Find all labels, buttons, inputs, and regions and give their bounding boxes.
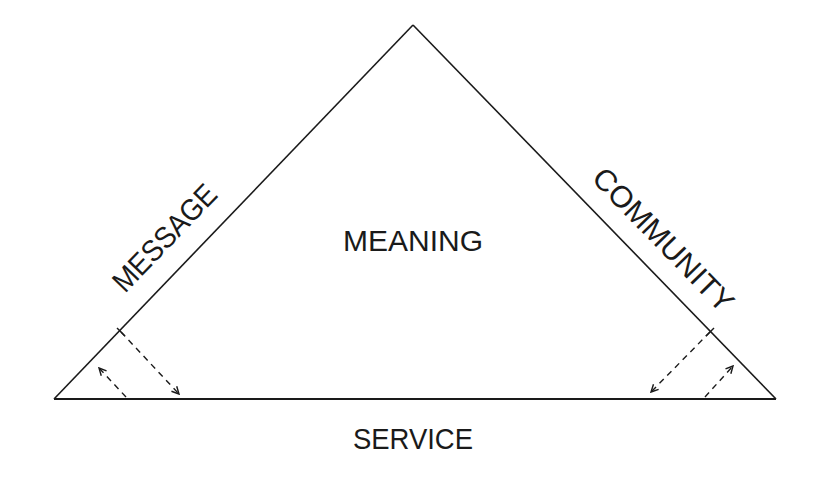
label-service: SERVICE <box>353 422 473 455</box>
triangle-left-side <box>54 25 413 399</box>
label-meaning: MEANING <box>343 224 483 257</box>
right-connector-up-arrow <box>705 366 733 397</box>
label-community: COMMUNITY <box>586 161 741 319</box>
triangle-right-side <box>413 25 776 399</box>
left-connector-down-arrow <box>121 332 179 394</box>
label-message: MESSAGE <box>105 177 223 298</box>
triangle-diagram: MEANING SERVICE MESSAGE COMMUNITY <box>0 0 818 478</box>
right-connector-down-arrow <box>651 332 710 392</box>
left-connector-up-arrow <box>99 368 126 397</box>
